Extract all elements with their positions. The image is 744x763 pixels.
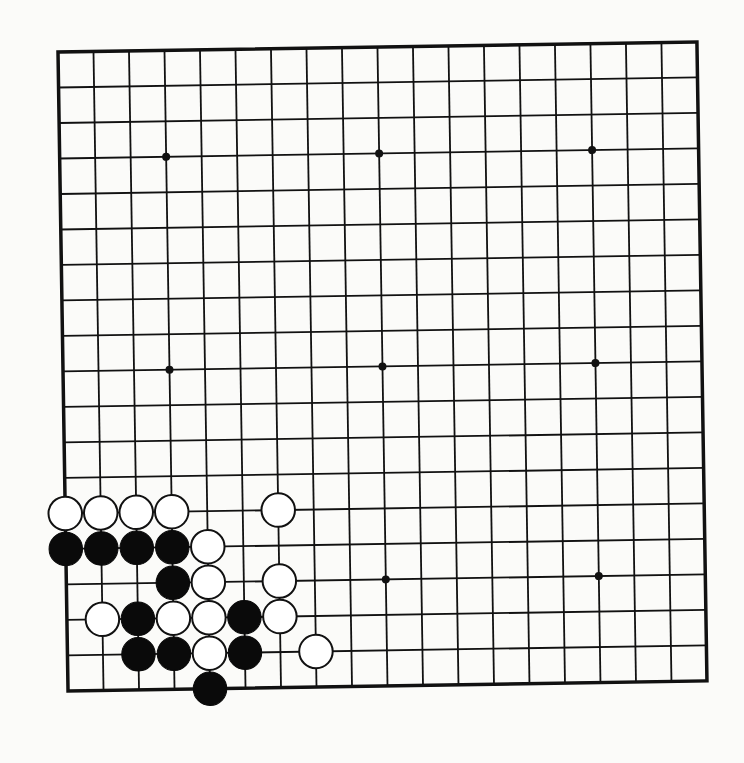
white-stone [261,493,295,527]
black-stone [120,531,154,565]
star-point-icon [378,362,386,370]
go-board[interactable] [0,0,744,763]
black-stone [121,602,155,636]
black-stone [49,532,83,566]
white-stone [85,602,119,636]
black-stone [156,566,190,600]
star-point-icon [595,572,603,580]
star-point-icon [165,366,173,374]
white-stone [84,496,118,530]
white-stone [299,635,333,669]
black-stone [193,672,227,706]
star-points [162,146,603,587]
white-stone [262,564,296,598]
white-stone [155,495,189,529]
white-stone [191,565,225,599]
stones-layer [48,493,333,708]
black-stone [157,637,191,671]
board-grid-group [41,42,707,708]
white-stone [119,495,153,529]
black-stone [227,600,261,634]
star-point-icon [588,146,596,154]
star-point-icon [162,153,170,161]
star-point-icon [591,359,599,367]
black-stone [121,637,155,671]
white-stone [48,496,82,530]
star-point-icon [375,149,383,157]
white-stone [192,601,226,635]
black-stone [155,530,189,564]
black-stone [84,531,118,565]
white-stone [191,530,225,564]
black-stone [228,636,262,670]
star-point-icon [382,575,390,583]
white-stone [192,636,226,670]
white-stone [263,600,297,634]
white-stone [156,601,190,635]
